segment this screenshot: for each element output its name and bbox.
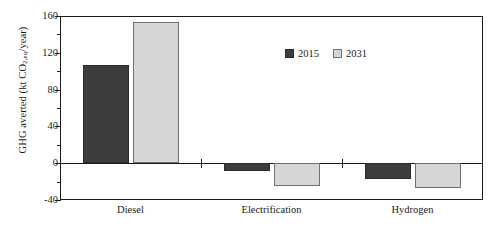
- legend-item-2015: 2015: [285, 48, 319, 59]
- y-axis-major-tick: [55, 16, 61, 17]
- bar-electrification-2031: [274, 163, 320, 186]
- y-axis-tick-label: 80: [18, 85, 58, 95]
- x-axis-group-separator-tick: [201, 159, 202, 168]
- y-axis-minor-tick: [57, 34, 61, 35]
- x-axis-group-separator-tick: [342, 159, 343, 168]
- ghg-averted-bar-chart: GHG averted (kt CO2,eq/year) 16012080400…: [0, 0, 496, 227]
- bar-electrification-2015: [224, 163, 270, 170]
- x-axis-category-label-electrification: Electrification: [241, 204, 301, 215]
- y-axis-tick-labels: 16012080400-40: [18, 0, 58, 227]
- legend-item-2031: 2031: [333, 48, 367, 59]
- y-axis-minor-tick: [57, 71, 61, 72]
- y-axis-tick-label: -40: [18, 195, 58, 205]
- legend-label-2015: 2015: [298, 48, 319, 59]
- plot-area: [60, 16, 483, 200]
- y-axis-minor-tick: [57, 108, 61, 109]
- legend: 2015 2031: [285, 48, 367, 59]
- y-axis-tick-label: 160: [18, 11, 58, 21]
- legend-label-2031: 2031: [346, 48, 367, 59]
- bar-hydrogen-2015: [365, 163, 411, 179]
- y-axis-tick-label: 120: [18, 48, 58, 58]
- bar-hydrogen-2031: [415, 163, 461, 188]
- light-square-swatch-icon: [333, 49, 342, 58]
- y-axis-major-tick: [55, 53, 61, 54]
- dark-square-swatch-icon: [285, 49, 294, 58]
- y-axis-minor-tick: [57, 145, 61, 146]
- y-axis-major-tick: [55, 90, 61, 91]
- y-axis-major-tick: [55, 200, 61, 201]
- x-axis-category-label-hydrogen: Hydrogen: [392, 204, 434, 215]
- y-axis-minor-tick: [57, 182, 61, 183]
- bar-diesel-2031: [133, 22, 179, 163]
- y-axis-major-tick: [55, 163, 61, 164]
- y-axis-major-tick: [55, 126, 61, 127]
- y-axis-tick-label: 0: [18, 158, 58, 168]
- x-axis-category-label-diesel: Diesel: [117, 204, 144, 215]
- y-axis-tick-label: 40: [18, 121, 58, 131]
- bar-diesel-2015: [83, 65, 129, 163]
